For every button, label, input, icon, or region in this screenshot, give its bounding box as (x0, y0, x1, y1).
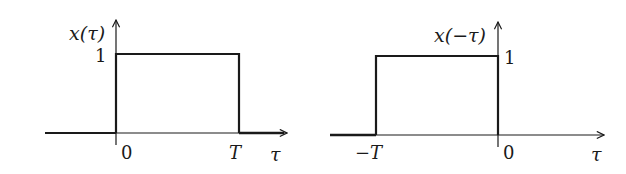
right-tick-minus-T: −T (355, 142, 384, 163)
left-pulse (116, 54, 239, 133)
right-x-label: τ (591, 143, 602, 165)
right-pulse (376, 56, 498, 135)
left-x-label: τ (270, 143, 281, 165)
figure-canvas: x(τ) 1 0 T τ x(−τ) 1 −T 0 τ (0, 0, 626, 174)
right-tick-origin: 0 (503, 142, 514, 163)
left-amplitude-label: 1 (95, 45, 106, 66)
left-tick-origin: 0 (121, 142, 132, 163)
right-amplitude-label: 1 (504, 47, 515, 68)
right-plot: x(−τ) 1 −T 0 τ (330, 22, 604, 165)
left-y-label: x(τ) (69, 22, 105, 44)
left-tick-T: T (229, 142, 243, 163)
left-plot: x(τ) 1 0 T τ (45, 20, 287, 165)
right-y-label: x(−τ) (434, 24, 486, 46)
